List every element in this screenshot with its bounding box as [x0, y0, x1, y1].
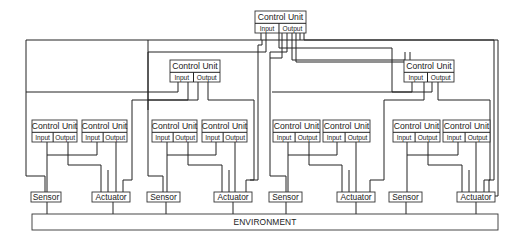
- control-unit-cu-low-3: Control UnitInputOutput: [152, 120, 198, 142]
- control-unit-label: Control Unit: [152, 121, 198, 131]
- control-unit-label: Control Unit: [324, 121, 370, 131]
- input-port-label: Input: [260, 25, 275, 33]
- sensor-3-label: Sensor: [272, 192, 299, 202]
- control-unit-cu-low-2: Control UnitInputOutput: [82, 120, 128, 142]
- input-port-label: Input: [447, 134, 462, 142]
- control-unit-label: Control Unit: [202, 121, 248, 131]
- control-unit-label: Control Unit: [32, 121, 78, 131]
- control-unit-cu-low-4: Control UnitInputOutput: [202, 120, 248, 142]
- input-port-label: Input: [155, 134, 170, 142]
- output-port-label: Output: [283, 25, 303, 33]
- diagram-blocks: Control UnitInputOutputControl UnitInput…: [31, 11, 498, 230]
- output-port-label: Output: [105, 134, 125, 142]
- control-hierarchy-diagram: Control UnitInputOutputControl UnitInput…: [0, 0, 526, 243]
- actuator-2-label: Actuator: [217, 192, 248, 202]
- input-port-label: Input: [277, 134, 292, 142]
- output-port-label: Output: [298, 134, 318, 142]
- control-unit-cu-top: Control UnitInputOutput: [255, 11, 306, 33]
- control-unit-cu-low-8: Control UnitInputOutput: [443, 120, 490, 142]
- output-port-label: Output: [418, 134, 438, 142]
- actuator-1-label: Actuator: [95, 192, 126, 202]
- input-port-label: Input: [35, 134, 50, 142]
- actuator-4: Actuator: [457, 192, 495, 202]
- control-unit-cu-low-1: Control UnitInputOutput: [32, 120, 78, 142]
- control-unit-cu-mid-right: Control UnitInputOutput: [404, 60, 454, 82]
- control-unit-label: Control Unit: [274, 121, 320, 131]
- control-unit-label: Control Unit: [82, 121, 128, 131]
- actuator-3-label: Actuator: [340, 192, 371, 202]
- input-port-label: Input: [85, 134, 100, 142]
- input-port-label: Input: [397, 134, 412, 142]
- actuator-4-label: Actuator: [460, 192, 491, 202]
- input-port-label: Input: [174, 74, 189, 82]
- output-port-label: Output: [431, 74, 451, 82]
- environment-block: ENVIRONMENT: [32, 214, 498, 230]
- input-port-label: Input: [327, 134, 342, 142]
- control-unit-label: Control Unit: [406, 61, 452, 71]
- actuator-2: Actuator: [214, 192, 252, 202]
- control-unit-cu-low-5: Control UnitInputOutput: [273, 120, 320, 142]
- sensor-4: Sensor: [389, 192, 422, 202]
- control-unit-label: Control Unit: [444, 121, 490, 131]
- sensor-1: Sensor: [31, 192, 61, 202]
- input-port-label: Input: [408, 74, 423, 82]
- control-unit-label: Control Unit: [258, 12, 304, 22]
- actuator-1: Actuator: [92, 192, 130, 202]
- control-unit-cu-mid-left: Control UnitInputOutput: [170, 60, 220, 82]
- actuator-3: Actuator: [337, 192, 375, 202]
- sensor-1-label: Sensor: [33, 192, 60, 202]
- environment-label: ENVIRONMENT: [234, 217, 297, 227]
- sensor-2: Sensor: [147, 192, 180, 202]
- output-port-label: Output: [55, 134, 75, 142]
- sensor-4-label: Sensor: [392, 192, 419, 202]
- control-unit-cu-low-7: Control UnitInputOutput: [393, 120, 440, 142]
- output-port-label: Output: [348, 134, 368, 142]
- control-unit-cu-low-6: Control UnitInputOutput: [323, 120, 370, 142]
- control-unit-label: Control Unit: [172, 61, 218, 71]
- control-unit-label: Control Unit: [394, 121, 440, 131]
- output-port-label: Output: [225, 134, 245, 142]
- output-port-label: Output: [197, 74, 217, 82]
- sensor-3: Sensor: [269, 192, 302, 202]
- input-port-label: Input: [205, 134, 220, 142]
- output-port-label: Output: [468, 134, 488, 142]
- sensor-2-label: Sensor: [150, 192, 177, 202]
- output-port-label: Output: [175, 134, 195, 142]
